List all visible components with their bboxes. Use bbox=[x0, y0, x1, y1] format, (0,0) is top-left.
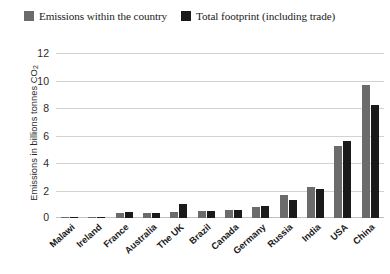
bar bbox=[371, 105, 379, 218]
bar bbox=[116, 213, 124, 218]
bar-group bbox=[138, 53, 165, 218]
x-tick-cell: The UK bbox=[165, 219, 192, 274]
bar bbox=[61, 217, 69, 218]
bar-group bbox=[193, 53, 220, 218]
y-axis-title: Emissions in billions tonnes CO2 bbox=[29, 48, 39, 218]
y-tick-label-0: 0 bbox=[43, 211, 49, 223]
bar bbox=[343, 141, 351, 218]
bar-groups bbox=[56, 53, 384, 218]
legend-swatch-within bbox=[24, 11, 34, 21]
bar bbox=[280, 195, 288, 218]
bar-group bbox=[329, 53, 356, 218]
bar-group bbox=[111, 53, 138, 218]
x-tick-cell: China bbox=[357, 219, 384, 274]
bar bbox=[316, 189, 324, 218]
chart-page: Emissions within the country Total footp… bbox=[0, 0, 390, 274]
legend-swatch-total bbox=[181, 11, 191, 21]
y-axis-title-subscript: 2 bbox=[32, 65, 39, 69]
y-tick-label-6: 6 bbox=[43, 130, 49, 142]
y-tick-label-2: 2 bbox=[43, 185, 49, 197]
legend-label-total: Total footprint (including trade) bbox=[196, 10, 335, 22]
chart-legend: Emissions within the country Total footp… bbox=[24, 10, 335, 22]
bar-group bbox=[275, 53, 302, 218]
bar bbox=[125, 212, 133, 218]
y-tick-label-8: 8 bbox=[43, 102, 49, 114]
y-tick-label-4: 4 bbox=[43, 157, 49, 169]
legend-label-within: Emissions within the country bbox=[39, 10, 167, 22]
bar bbox=[307, 187, 315, 218]
bar bbox=[179, 204, 187, 218]
bar bbox=[70, 217, 78, 218]
bar-group bbox=[83, 53, 110, 218]
y-tick-label-10: 10 bbox=[37, 75, 49, 87]
bar bbox=[362, 85, 370, 218]
bar bbox=[234, 210, 242, 218]
legend-entry-within: Emissions within the country bbox=[24, 10, 167, 22]
y-tick-label-12: 12 bbox=[37, 47, 49, 59]
x-tick-label: Malawi bbox=[47, 222, 76, 250]
x-tick-cell: USA bbox=[329, 219, 356, 274]
bar bbox=[170, 212, 178, 218]
legend-entry-total: Total footprint (including trade) bbox=[181, 10, 335, 22]
bar bbox=[289, 200, 297, 218]
bar bbox=[225, 210, 233, 218]
bar bbox=[252, 207, 260, 218]
bar-group bbox=[56, 53, 83, 218]
bar bbox=[207, 211, 215, 218]
x-tick-cell: India bbox=[302, 219, 329, 274]
y-axis-title-text: Emissions in billions tonnes CO bbox=[29, 69, 39, 201]
bar bbox=[143, 213, 151, 218]
bar bbox=[88, 217, 96, 218]
bar-group bbox=[302, 53, 329, 218]
bar bbox=[152, 213, 160, 218]
plot-area: 12 10 8 6 4 2 0 bbox=[56, 53, 384, 218]
bar-group bbox=[165, 53, 192, 218]
bar bbox=[198, 211, 206, 218]
bar-group bbox=[247, 53, 274, 218]
x-tick-cell: Russia bbox=[275, 219, 302, 274]
bar-group bbox=[220, 53, 247, 218]
bar-group bbox=[357, 53, 384, 218]
bar bbox=[261, 206, 269, 218]
bar bbox=[334, 146, 342, 218]
x-tick-label: USA bbox=[329, 222, 350, 242]
x-tick-label: India bbox=[300, 222, 323, 244]
bar bbox=[97, 217, 105, 218]
x-axis-tick-labels: MalawiIrelandFranceAustraliaThe UKBrazil… bbox=[56, 219, 384, 274]
